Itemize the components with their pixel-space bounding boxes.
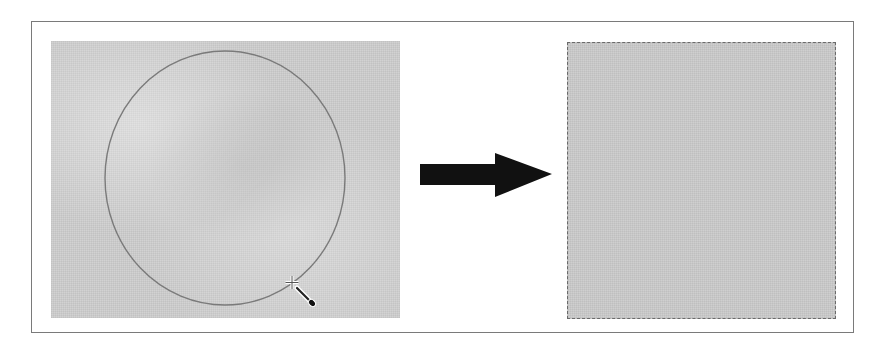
arrow-right-icon [420, 153, 552, 197]
rectangle-selection-result [567, 42, 836, 319]
circle-selection-outline [105, 51, 345, 305]
magic-wand-cursor-icon [286, 276, 317, 308]
